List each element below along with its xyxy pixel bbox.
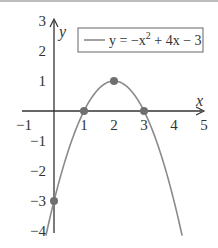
x-tick-label: 5: [200, 117, 208, 133]
x-tick-label: 2: [110, 117, 118, 133]
y-tick-label: −4: [30, 223, 46, 239]
y-tick-label: −3: [30, 193, 46, 209]
x-tick-label: 1: [80, 117, 88, 133]
data-point: [110, 77, 118, 85]
x-tick-label: −1: [16, 117, 32, 133]
x-tick-label: 4: [170, 117, 178, 133]
y-tick-label: −2: [30, 163, 46, 179]
legend-label: y = −x2 + 4x − 3: [109, 30, 202, 48]
parabola-curve: [46, 81, 182, 236]
data-point: [50, 197, 58, 205]
data-point: [80, 107, 88, 115]
y-tick-label: 3: [39, 13, 47, 29]
y-tick-label: 1: [39, 73, 47, 89]
y-tick-label: −1: [30, 133, 46, 149]
data-point: [140, 107, 148, 115]
legend: y = −x2 + 4x − 3: [78, 28, 203, 52]
x-axis-label: x: [195, 92, 203, 109]
highlighted-points: [50, 77, 148, 205]
x-tick-label: 3: [140, 117, 148, 133]
y-tick-label: 2: [39, 43, 47, 59]
y-axis-label: y: [57, 23, 67, 41]
parabola-chart: −112345321−1−2−3−4 x y y = −x2 + 4x − 3: [0, 0, 218, 248]
